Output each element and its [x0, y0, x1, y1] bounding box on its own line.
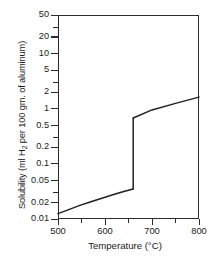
x-axis-minor-tick: [128, 219, 129, 223]
x-axis-minor-tick: [175, 219, 176, 223]
x-axis-tick-label: 600: [90, 226, 120, 236]
y-axis-tick-label: 0.01: [0, 214, 49, 223]
y-axis-tick: [51, 202, 58, 203]
x-axis-minor-tick: [81, 219, 82, 223]
y-axis-minor-tick: [53, 192, 58, 193]
x-axis-title: Temperature (°C): [40, 240, 210, 251]
y-axis-tick: [51, 70, 58, 71]
y-axis-tick-label: 50: [0, 10, 49, 19]
y-axis-tick: [51, 15, 58, 16]
y-axis-minor-tick: [53, 27, 58, 28]
y-axis-tick: [51, 180, 58, 181]
solubility-chart-figure: Solubility (ml H2 per 100 gm. of aluminu…: [0, 0, 220, 264]
y-axis-tick-label: 5: [0, 65, 49, 74]
y-axis-tick: [51, 125, 58, 126]
y-axis-minor-tick: [53, 137, 58, 138]
curve-solid-phase: [58, 189, 133, 214]
y-axis-tick-label: 1: [0, 104, 49, 113]
y-axis-minor-tick: [53, 82, 58, 83]
y-axis-tick: [51, 163, 58, 164]
y-axis-tick: [51, 108, 58, 109]
y-axis-tick-label: 2: [0, 87, 49, 96]
y-axis-tick-label: 0.5: [0, 121, 49, 130]
y-axis-tick-label: 0.2: [0, 142, 49, 151]
y-axis-tick: [51, 53, 58, 54]
x-axis-tick-label: 500: [43, 226, 73, 236]
y-axis-tick-label: 20: [0, 32, 49, 41]
curve-liquid-phase: [133, 97, 199, 118]
y-axis-tick-label: 0.02: [0, 198, 49, 207]
y-axis-tick: [51, 147, 58, 148]
data-curve: [58, 15, 199, 219]
x-axis-tick-label: 800: [184, 226, 214, 236]
y-axis-tick-label: 0.1: [0, 159, 49, 168]
y-axis-tick-label: 0.05: [0, 176, 49, 185]
y-axis-tick-label: 10: [0, 49, 49, 58]
y-axis-tick: [51, 36, 58, 37]
y-axis-tick: [51, 92, 58, 93]
x-axis-tick-label: 700: [137, 226, 167, 236]
